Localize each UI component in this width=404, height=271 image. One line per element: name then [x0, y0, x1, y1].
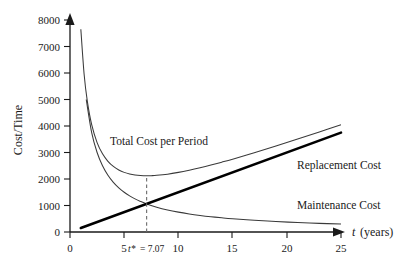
x-axis-title-variable: t — [352, 225, 356, 239]
y-tick-labels: 0 1000 2000 3000 4000 5000 6000 7000 800… — [38, 14, 61, 238]
series-label-replacement-cost: Replacement Cost — [297, 159, 382, 172]
y-tick-label-4000: 4000 — [38, 120, 61, 132]
x-axis-title-units: (years) — [360, 225, 393, 239]
x-axis-title: t (years) — [352, 225, 393, 239]
x-tick-labels: 0 5 10 15 20 25 — [67, 242, 347, 254]
y-axis-arrow-icon — [65, 13, 74, 25]
y-tick-label-1000: 1000 — [38, 200, 61, 212]
y-tick-label-3000: 3000 — [38, 147, 61, 159]
t-star-value: = 7.07 — [140, 244, 165, 254]
x-axis — [70, 227, 345, 236]
y-axis — [65, 13, 74, 232]
x-tick-marks — [70, 232, 341, 238]
x-tick-label-20: 20 — [282, 242, 294, 254]
y-tick-label-2000: 2000 — [38, 173, 61, 185]
x-tick-label-10: 10 — [173, 242, 185, 254]
x-tick-label-5: 5 — [121, 242, 127, 254]
x-axis-arrow-icon — [333, 227, 345, 236]
chart-figure: 0 1000 2000 3000 4000 5000 6000 7000 800… — [0, 0, 404, 271]
x-tick-label-15: 15 — [227, 242, 239, 254]
series-line-total-cost — [81, 29, 341, 176]
y-axis-title: Cost/Time — [11, 105, 25, 155]
x-tick-label-25: 25 — [336, 242, 348, 254]
t-star-symbol: t* — [128, 244, 136, 254]
y-tick-label-5000: 5000 — [38, 94, 61, 106]
chart-svg: 0 1000 2000 3000 4000 5000 6000 7000 800… — [0, 0, 404, 271]
series-label-total-cost: Total Cost per Period — [110, 135, 208, 148]
y-tick-label-8000: 8000 — [38, 14, 61, 26]
y-tick-marks — [64, 20, 70, 232]
series-label-maintenance-cost: Maintenance Cost — [297, 199, 381, 211]
y-tick-label-6000: 6000 — [38, 67, 61, 79]
t-star-annotation: t* = 7.07 — [128, 244, 165, 254]
y-tick-label-7000: 7000 — [38, 41, 61, 53]
y-tick-label-0: 0 — [55, 226, 61, 238]
x-tick-label-0: 0 — [67, 242, 73, 254]
